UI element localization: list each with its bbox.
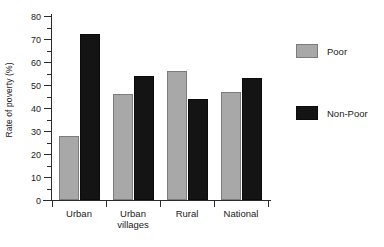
x-axis-tick [52, 201, 53, 207]
bar-non-poor-rural [188, 99, 208, 200]
plot-area [52, 16, 268, 200]
legend-label: Non-Poor [327, 108, 368, 119]
bar-poor-rural [167, 71, 187, 200]
y-axis-tick-label: 50 [31, 81, 41, 91]
legend-item-non-poor: Non-Poor [296, 106, 368, 120]
bar-poor-urban-villages [113, 94, 133, 200]
legend-label: Poor [327, 46, 347, 57]
legend-swatch-non-poor [296, 106, 318, 120]
y-axis-tick-label: 10 [31, 173, 41, 183]
y-axis-tick-label: 0 [36, 196, 41, 206]
bar-poor-national [221, 92, 241, 200]
bar-non-poor-urban [80, 34, 100, 200]
y-axis-tick-label: 80 [31, 12, 41, 22]
bar-non-poor-national [242, 78, 262, 200]
bar-poor-urban [59, 136, 79, 200]
y-axis-title-text: Rate of poverty (%) [4, 62, 14, 137]
bar-non-poor-urban-villages [134, 76, 154, 200]
y-axis-tick-label: 20 [31, 150, 41, 160]
legend-item-poor: Poor [296, 44, 347, 58]
y-axis-tick-label: 40 [31, 104, 41, 114]
y-axis-tick-label: 70 [31, 35, 41, 45]
x-axis-tick [106, 201, 107, 207]
x-axis-tick [214, 201, 215, 207]
x-axis-tick [268, 201, 269, 207]
y-axis-title: Rate of poverty (%) [0, 0, 18, 200]
x-axis-line [43, 200, 271, 201]
x-axis-label-line: National [206, 208, 276, 219]
x-axis-label-national: National [206, 208, 276, 219]
legend-swatch-poor [296, 44, 318, 58]
x-axis-tick [160, 201, 161, 207]
y-axis-tick-label: 30 [31, 127, 41, 137]
bar-chart-figure: Rate of poverty (%) 01020304050607080 Ur… [0, 0, 384, 247]
x-axis-label-line: villages [98, 219, 168, 230]
y-axis-tick-label: 60 [31, 58, 41, 68]
